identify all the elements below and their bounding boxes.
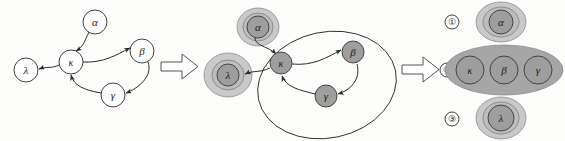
node-gamma-panel2[interactable]: γ — [315, 85, 337, 107]
edge-group-panel1 — [39, 32, 149, 93]
node-lambda-panel1[interactable]: λ — [14, 58, 38, 82]
node-kappa-panel3[interactable]: κ — [456, 56, 484, 84]
node-gamma-panel1[interactable]: γ — [101, 83, 125, 107]
edge-group-panel2 — [245, 38, 358, 94]
block-arrow-shape — [161, 54, 198, 79]
node-beta-panel3[interactable]: β — [490, 56, 518, 84]
node-circle[interactable] — [59, 50, 83, 74]
node-circle[interactable] — [14, 58, 38, 82]
index-circle-1 — [445, 15, 459, 29]
node-circle-lambda[interactable] — [488, 105, 514, 131]
node-circle[interactable] — [524, 56, 552, 84]
edge-kappa-to-beta — [292, 50, 341, 64]
node-kappa-panel1[interactable]: κ — [59, 50, 83, 74]
component-group-3[interactable]: ③ λ — [445, 97, 526, 139]
component-group-1[interactable]: ① α — [445, 2, 526, 42]
node-circle[interactable] — [315, 85, 337, 107]
index-circle-3 — [445, 112, 459, 126]
node-circle[interactable] — [101, 83, 125, 107]
index-label-3: ③ — [448, 114, 456, 124]
figure-canvas: α κ λ β γ — [0, 0, 565, 141]
component-group-2[interactable]: ② κ β γ — [440, 45, 563, 95]
edge-kappa-to-lambda — [39, 65, 59, 69]
edge-kappa-to-beta — [83, 48, 130, 62]
node-kappa-panel2[interactable]: κ — [270, 52, 292, 74]
node-circle[interactable] — [490, 56, 518, 84]
edge-gamma-to-kappa — [282, 76, 315, 94]
panel-original-digraph: α κ λ β γ — [14, 10, 154, 107]
transition-arrow-left — [161, 54, 198, 79]
node-alpha-panel1[interactable]: α — [83, 10, 107, 34]
figure-root: α κ λ β γ — [0, 0, 565, 141]
edge-beta-to-gamma — [338, 64, 358, 94]
node-circle[interactable] — [83, 10, 107, 34]
edge-beta-to-gamma — [126, 62, 149, 93]
edge-gamma-to-kappa — [71, 75, 101, 93]
node-circle[interactable] — [217, 64, 239, 86]
node-gamma-panel3[interactable]: γ — [524, 56, 552, 84]
node-circle[interactable] — [247, 16, 269, 38]
node-circle[interactable] — [456, 56, 484, 84]
panel-condensation: ① α ② κ β — [440, 2, 563, 139]
node-circle[interactable] — [342, 41, 364, 63]
block-arrow-shape — [402, 57, 439, 82]
node-lambda-panel2[interactable]: λ — [217, 64, 239, 86]
edge-alpha-to-kappa — [76, 32, 89, 51]
node-circle[interactable] — [270, 52, 292, 74]
node-circle[interactable] — [130, 39, 154, 63]
node-beta-panel2[interactable]: β — [342, 41, 364, 63]
node-beta-panel1[interactable]: β — [130, 39, 154, 63]
index-label-1: ① — [448, 17, 456, 27]
transition-arrow-right — [402, 57, 439, 82]
node-circle-alpha[interactable] — [489, 10, 513, 34]
panel-components-highlighted: α κ λ β γ — [204, 8, 406, 141]
node-alpha-panel2[interactable]: α — [247, 16, 269, 38]
